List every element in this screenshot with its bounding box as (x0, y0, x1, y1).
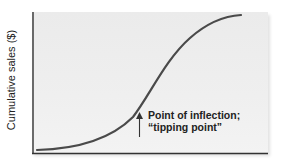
y-axis-label: Cumulative sales ($) (5, 25, 17, 135)
s-curve-chart: Cumulative sales ($) Point of inflection… (0, 0, 285, 165)
chart-svg (0, 0, 285, 165)
annotation-line-1: Point of inflection; (148, 109, 240, 121)
annotation-line-2: “tipping point” (148, 121, 240, 133)
inflection-annotation: Point of inflection; “tipping point” (148, 109, 240, 133)
